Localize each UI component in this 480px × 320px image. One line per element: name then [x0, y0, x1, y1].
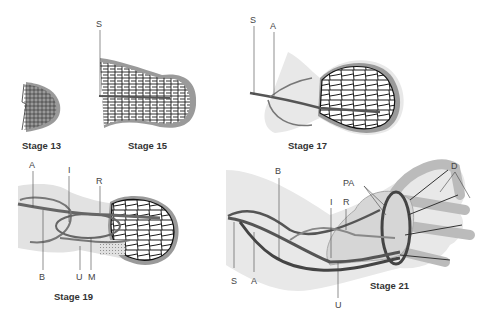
marker-s-stage15: S	[96, 19, 102, 29]
marker-a-stage21: A	[251, 276, 257, 286]
stage17-limb	[250, 26, 404, 135]
marker-b-stage21: B	[275, 166, 281, 176]
stage19-label: Stage 19	[54, 291, 93, 302]
illustration-canvas	[0, 0, 480, 320]
stage13-bud	[22, 82, 60, 132]
stage21-label: Stage 21	[370, 280, 409, 291]
marker-a-stage19: A	[29, 160, 35, 170]
marker-b-stage19: B	[39, 272, 45, 282]
stage17-label: Stage 17	[288, 140, 327, 151]
marker-u-stage19: U	[76, 272, 83, 282]
marker-r-stage19: R	[96, 176, 103, 186]
stage13-label: Stage 13	[22, 140, 61, 151]
limb-vasculature-figure: Stage 13 Stage 15 Stage 17 Stage 19 Stag…	[0, 0, 480, 320]
stage15-label: Stage 15	[128, 140, 167, 151]
marker-s-stage17: S	[250, 15, 256, 25]
marker-u-stage21: U	[335, 300, 342, 310]
marker-i-stage19: I	[68, 165, 71, 175]
marker-i-stage21: I	[330, 197, 333, 207]
marker-a-stage17: A	[270, 21, 276, 31]
marker-r-stage21: R	[343, 197, 350, 207]
marker-m-stage19: M	[88, 272, 96, 282]
marker-s-stage21: S	[231, 276, 237, 286]
stage15-limb	[99, 30, 196, 128]
marker-d-stage21: D	[451, 161, 458, 171]
marker-pa-stage21: PA	[343, 178, 354, 188]
